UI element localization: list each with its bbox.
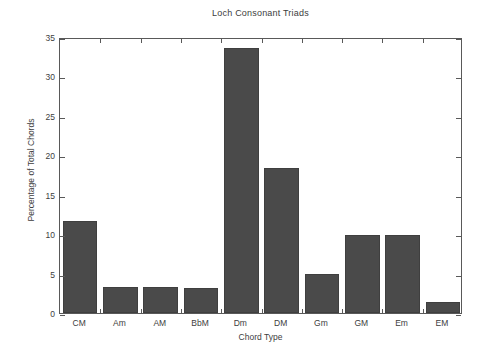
- bar-BbM: [184, 288, 219, 313]
- x-tick-mark: [382, 309, 383, 313]
- chart-figure: Loch Consonant Triads Percentage of Tota…: [0, 0, 485, 359]
- bar-Dm: [224, 48, 259, 313]
- y-tick-mark: [60, 276, 65, 277]
- bar-Gm: [305, 274, 340, 313]
- bar-GM: [345, 235, 380, 313]
- y-tick-mark-right: [456, 118, 461, 119]
- x-tick-mark: [221, 309, 222, 313]
- y-tick-mark-right: [456, 78, 461, 79]
- y-tick-label: 30: [25, 72, 55, 82]
- y-tick-mark-right: [456, 315, 461, 316]
- y-tick-mark: [60, 157, 65, 158]
- y-axis-tick-labels: 05101520253035: [22, 38, 55, 314]
- y-tick-label: 35: [25, 33, 55, 43]
- x-tick-mark-top: [423, 39, 424, 43]
- x-tick-mark: [262, 309, 263, 313]
- y-tick-label: 0: [25, 309, 55, 319]
- y-tick-label: 15: [25, 191, 55, 201]
- plot-area: [59, 38, 462, 314]
- chart-title: Loch Consonant Triads: [59, 8, 462, 18]
- x-tick-mark: [100, 309, 101, 313]
- y-tick-mark: [60, 118, 65, 119]
- x-tick-mark-top: [100, 39, 101, 43]
- bar-AM: [143, 287, 178, 313]
- y-tick-mark: [60, 315, 65, 316]
- x-tick-mark-top: [221, 39, 222, 43]
- y-tick-label: 20: [25, 151, 55, 161]
- x-tick-label-DM: DM: [274, 318, 287, 328]
- x-axis-title: Chord Type: [59, 332, 462, 342]
- y-tick-mark: [60, 78, 65, 79]
- x-tick-mark: [342, 309, 343, 313]
- x-tick-mark: [181, 309, 182, 313]
- y-tick-mark-right: [456, 197, 461, 198]
- bar-Am: [103, 287, 138, 313]
- y-tick-label: 5: [25, 270, 55, 280]
- x-tick-label-AM: AM: [153, 318, 166, 328]
- x-tick-label-Gm: Gm: [314, 318, 328, 328]
- x-tick-mark: [141, 309, 142, 313]
- x-tick-mark-top: [262, 39, 263, 43]
- y-tick-mark-right: [456, 236, 461, 237]
- bar-CM: [63, 221, 98, 313]
- x-tick-label-Em: Em: [395, 318, 408, 328]
- x-tick-label-BbM: BbM: [191, 318, 208, 328]
- x-tick-label-Am: Am: [113, 318, 126, 328]
- y-tick-mark: [60, 236, 65, 237]
- y-tick-mark-right: [456, 157, 461, 158]
- bar-DM: [264, 168, 299, 313]
- x-tick-mark: [302, 309, 303, 313]
- x-tick-label-CM: CM: [73, 318, 86, 328]
- x-tick-label-GM: GM: [354, 318, 368, 328]
- y-tick-label: 25: [25, 112, 55, 122]
- x-tick-mark-top: [382, 39, 383, 43]
- y-tick-mark: [60, 197, 65, 198]
- y-tick-label: 10: [25, 230, 55, 240]
- x-tick-mark-top: [342, 39, 343, 43]
- x-tick-label-EM: EM: [435, 318, 448, 328]
- y-tick-mark-right: [456, 39, 461, 40]
- x-tick-label-Dm: Dm: [234, 318, 247, 328]
- x-tick-mark: [423, 309, 424, 313]
- y-tick-mark: [60, 39, 65, 40]
- bars-layer: [60, 39, 461, 313]
- bar-Em: [385, 235, 420, 313]
- x-tick-mark-top: [302, 39, 303, 43]
- bar-EM: [426, 302, 461, 313]
- x-tick-mark-top: [141, 39, 142, 43]
- x-tick-mark-top: [181, 39, 182, 43]
- y-tick-mark-right: [456, 276, 461, 277]
